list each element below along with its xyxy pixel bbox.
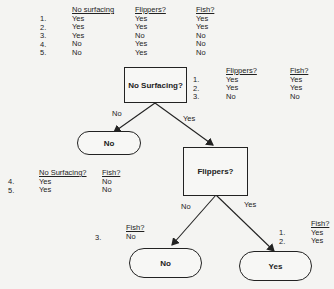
edge-label-flippers-yes: Yes — [244, 200, 256, 209]
edge-label-root-yes: Yes — [183, 114, 195, 123]
edge-label-root-no: No — [112, 109, 122, 118]
flippers-decision-node: Flippers? — [183, 147, 248, 196]
no-surfacing-column: No surfacing Yes Yes Yes No No — [72, 6, 114, 58]
row-number-column: 1. 2. 3. 4. 5. — [40, 15, 46, 58]
leaf-node-flippers-yes: Yes — [239, 251, 312, 281]
root-decision-node: No Surfacing? — [124, 67, 187, 103]
edge-flippers-no — [172, 195, 216, 245]
edge-label-flippers-no: No — [181, 202, 191, 211]
flippers-column: Flippers? Yes Yes No Yes Yes — [135, 6, 166, 58]
leaf-node-flippers-no: No — [129, 248, 202, 278]
leaf-node-no: No — [77, 131, 141, 155]
edge-root-yes — [155, 103, 213, 145]
fish-column: Fish? Yes Yes No No No — [196, 6, 214, 58]
